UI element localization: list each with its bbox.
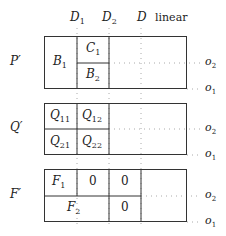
- row-label-o1: o1: [205, 147, 216, 162]
- cell-f1: F1: [52, 174, 65, 190]
- cell-f2: F2: [67, 200, 80, 216]
- column-label-d1: D1: [70, 10, 85, 26]
- row-label-o2: o2: [205, 188, 216, 203]
- cell-b2: B2: [86, 67, 100, 83]
- cell-b1: B1: [53, 54, 67, 70]
- block-label-p: P′: [10, 54, 21, 68]
- column-label-d2: D2: [102, 10, 117, 26]
- block-label-f: F′: [10, 187, 21, 201]
- cell-zero: 0: [121, 174, 129, 188]
- row-label-o1: o1: [205, 214, 216, 229]
- cell-q11: Q11: [50, 108, 70, 124]
- row-label-o2: o2: [205, 121, 216, 136]
- cell-c1: C1: [86, 41, 100, 57]
- column-label-linear: linear: [155, 11, 187, 24]
- cell-q22: Q22: [82, 134, 102, 150]
- cell-q21: Q21: [50, 134, 70, 150]
- row-label-o1: o1: [205, 81, 216, 96]
- block-label-q: Q′: [10, 120, 23, 134]
- cell-q12: Q12: [82, 108, 102, 124]
- cell-zero: 0: [121, 200, 129, 214]
- cell-zero: 0: [89, 174, 97, 188]
- column-label-d: D: [137, 10, 147, 24]
- row-label-o2: o2: [205, 55, 216, 70]
